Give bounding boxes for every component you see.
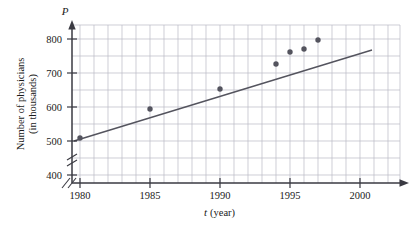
data-point xyxy=(77,135,82,140)
x-tick-label: 1995 xyxy=(280,190,301,201)
data-point xyxy=(287,49,292,54)
y-axis-title-line1: Number of physicians xyxy=(15,58,26,151)
data-point xyxy=(273,61,278,66)
data-point xyxy=(147,106,152,111)
x-tick-label: 1990 xyxy=(210,190,231,201)
x-tick-label: 1980 xyxy=(70,190,91,201)
scatter-plot-figure: 800 700 600 500 400 1980 1985 1990 1995 … xyxy=(0,0,416,231)
plot-grid xyxy=(72,25,400,183)
x-tick-label: 2000 xyxy=(350,190,371,201)
data-points xyxy=(77,37,320,140)
y-tick-label: 700 xyxy=(46,68,62,79)
y-axis-title-line2: (in thousands) xyxy=(27,74,39,134)
x-tick-label: 1985 xyxy=(140,190,161,201)
data-point xyxy=(315,37,320,42)
y-tick-label: 400 xyxy=(46,170,62,181)
x-axis-variable-label: t xyxy=(204,206,208,218)
data-point xyxy=(217,86,222,91)
y-tick-label: 800 xyxy=(46,34,62,45)
y-axis-variable-label: P xyxy=(61,5,69,17)
data-point xyxy=(301,46,306,51)
figure-container: 800 700 600 500 400 1980 1985 1990 1995 … xyxy=(0,0,416,231)
x-axis-title: t (year) xyxy=(204,206,236,219)
y-tick-label: 600 xyxy=(46,102,62,113)
x-axis xyxy=(72,178,409,188)
y-axis-title: Number of physicians (in thousands) xyxy=(15,58,39,151)
x-axis-unit-label: (year) xyxy=(210,207,236,219)
trend-line xyxy=(74,50,372,141)
y-tick-label: 500 xyxy=(46,136,62,147)
